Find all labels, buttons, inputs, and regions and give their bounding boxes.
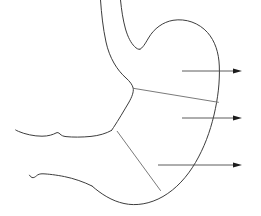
stomach-diagram-canvas	[0, 0, 261, 216]
diagram-background	[0, 0, 261, 216]
stomach-anatomy-illustration	[0, 0, 261, 216]
